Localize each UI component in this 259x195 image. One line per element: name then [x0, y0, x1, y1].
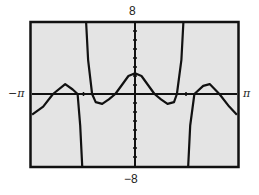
- plot-area: [0, 0, 259, 195]
